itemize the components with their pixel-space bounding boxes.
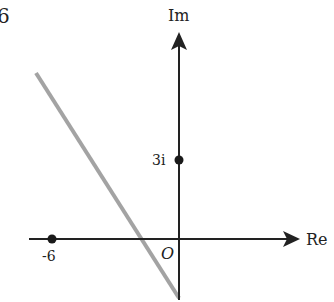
imaginary-axis-label: Im: [168, 8, 190, 24]
locus-line: [36, 73, 179, 298]
origin-label: O: [161, 246, 174, 262]
point-minus-6: [48, 235, 57, 244]
point-minus-6-label: -6: [42, 249, 56, 263]
argand-diagram: 6 Im Re O 3i -6: [0, 0, 334, 302]
point-3i-label: 3i: [152, 153, 165, 167]
real-axis-label: Re: [306, 232, 328, 248]
point-3i: [175, 156, 184, 165]
figure-number: 6: [0, 6, 10, 26]
